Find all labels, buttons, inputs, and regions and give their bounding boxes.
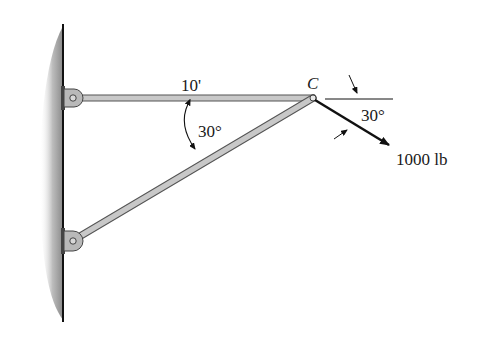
strut-angle-label: 30° (198, 122, 222, 141)
force-magnitude-label: 1000 lb (396, 150, 447, 169)
wall (40, 24, 63, 322)
length-label: 10' (181, 76, 201, 95)
angle-tick-arrow-top (349, 75, 357, 93)
joint-c-label: C (307, 74, 319, 93)
pin-icon (70, 238, 76, 244)
force-angle-label: 30° (361, 106, 385, 125)
angle-tick-arrow-bottom (334, 130, 347, 139)
strut-angle-arc (184, 104, 195, 149)
truss-diagram: 10' 30° C 30° 1000 lb (0, 0, 482, 344)
diagonal-strut (72, 98, 313, 241)
wall-shading (40, 26, 63, 320)
top-pin-support (61, 86, 83, 110)
pin-icon (70, 95, 76, 101)
horizontal-member (72, 95, 314, 101)
bottom-pin-support (61, 228, 83, 254)
